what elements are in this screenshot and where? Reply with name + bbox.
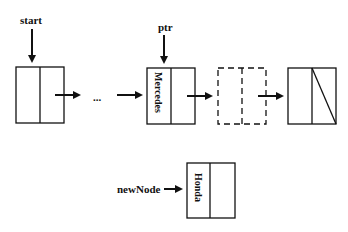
ptr-pointer: ptr bbox=[158, 21, 173, 62]
node-honda: Honda bbox=[187, 163, 235, 218]
node-data-honda: Honda bbox=[193, 173, 204, 202]
node-last bbox=[288, 68, 336, 124]
linked-list-diagram: start ... ptr Mercedes newNode bbox=[0, 0, 348, 232]
newnode-label: newNode bbox=[117, 183, 161, 195]
ptr-label: ptr bbox=[158, 21, 173, 33]
newnode-pointer: newNode bbox=[117, 183, 181, 195]
start-label: start bbox=[20, 14, 42, 26]
ellipsis: ... bbox=[93, 91, 102, 103]
node-data-mercedes: Mercedes bbox=[153, 72, 164, 113]
start-pointer: start bbox=[20, 14, 42, 61]
